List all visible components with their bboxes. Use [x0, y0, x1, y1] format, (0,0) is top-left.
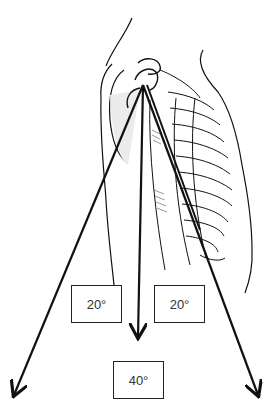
center-arrow — [138, 85, 143, 337]
angle-value: 20° — [170, 297, 190, 312]
angle-label-total: 40° — [113, 361, 164, 399]
shoulder-anatomy-illustration — [0, 0, 271, 414]
angle-value: 20° — [87, 297, 107, 312]
angle-label-right: 20° — [154, 285, 205, 323]
angle-label-left: 20° — [71, 285, 122, 323]
angle-value: 40° — [129, 373, 149, 388]
left-arrow — [14, 85, 143, 395]
elevation-arrows — [14, 85, 258, 395]
rib-cage — [150, 70, 232, 270]
